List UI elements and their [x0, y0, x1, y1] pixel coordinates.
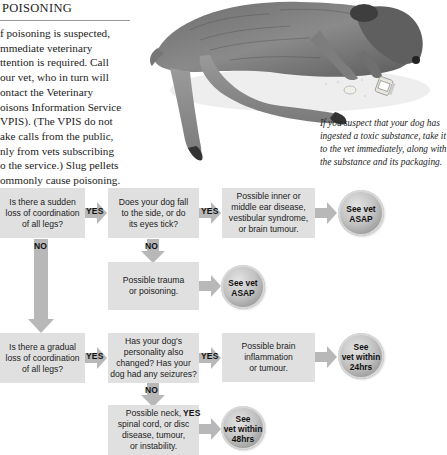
box-text-line: spinal cord, or disc	[118, 419, 190, 430]
action-text-line: vet within	[224, 424, 263, 434]
action-text-line: 24hrs	[342, 362, 381, 372]
box-text-line: disease, tumour,	[118, 430, 190, 441]
yes-label: YES	[201, 351, 219, 361]
arrow-right-icon	[315, 202, 337, 224]
action-text-line: ASAP	[346, 214, 375, 224]
intro-line: ommonly cause poisoning.	[0, 173, 155, 188]
question-gradual-loss-coordination: Is there a gradual loss of coordination …	[0, 333, 85, 383]
result-brain-inflammation: Possible brain inflammation or tumour.	[222, 333, 315, 382]
box-text-line: Is there a sudden	[5, 197, 79, 208]
action-text-line: See vet	[346, 204, 375, 214]
no-label: NO	[145, 241, 158, 251]
intro-line: o the service.) Slug pellets	[0, 158, 155, 173]
box-text-line: personality also	[110, 347, 196, 358]
intro-line: f poisoning is suspected,	[0, 26, 155, 41]
box-text-line: changed? Has your	[110, 358, 196, 369]
intro-line: VPIS). (The VPIS do not	[0, 114, 155, 129]
intro-line: mmediate veterinary	[0, 41, 155, 56]
box-text-line: or instability.	[118, 441, 190, 452]
action-see-vet-asap: See vet ASAP	[338, 190, 384, 236]
box-text-line: of all legs?	[5, 364, 79, 375]
action-text-line: See vet	[228, 278, 257, 288]
no-label: NO	[145, 385, 158, 395]
intro-line: ake calls from the public,	[0, 129, 155, 144]
yes-label: YES	[86, 206, 104, 216]
box-text-line: of all legs?	[5, 219, 79, 230]
no-label: NO	[34, 241, 47, 251]
intro-line: oisons Information Service	[0, 100, 155, 115]
arrow-right-icon	[199, 418, 221, 440]
action-text-line: ASAP	[228, 288, 257, 298]
box-text-line: inflammation	[242, 352, 296, 363]
yes-label: YES	[201, 206, 219, 216]
yes-label: YES	[86, 351, 104, 361]
question-fall-to-side: Does your dog fall to the side, or do it…	[108, 188, 199, 238]
arrow-right-icon	[315, 346, 337, 368]
box-text-line: loss of coordination	[5, 353, 79, 364]
yes-label: YES	[183, 408, 201, 418]
action-text-line: vet within	[342, 352, 381, 362]
action-see-vet-24hrs: See vet within 24hrs	[338, 333, 384, 379]
box-text-line: Possible brain	[242, 341, 296, 352]
intro-line: ontact the Veterinary	[0, 85, 155, 100]
box-text-line: loss of coordination	[5, 208, 79, 219]
result-trauma-poisoning: Possible trauma or poisoning.	[108, 262, 199, 310]
arrow-right-icon	[199, 275, 221, 297]
question-sudden-loss-coordination: Is there a sudden loss of coordination o…	[0, 188, 85, 238]
arrow-down-long-icon	[28, 239, 54, 333]
title-divider	[0, 20, 130, 21]
intro-line: ttention is required. Call	[0, 55, 155, 70]
section-title: POISONING	[2, 1, 72, 16]
box-text-line: or tumour.	[242, 363, 296, 374]
action-text-line: See	[342, 342, 381, 352]
box-text-line: dog had any seizures?	[110, 369, 196, 380]
caption-line: to the vet immediately, along with	[320, 143, 447, 156]
question-personality-seizures: Has your dog's personality also changed?…	[108, 333, 199, 383]
box-text-line: Does your dog fall	[119, 197, 188, 208]
caption-line: the substance and its packaging.	[320, 156, 447, 169]
action-text-line: 48hrs	[224, 434, 263, 444]
intro-line: our vet, who in turn will	[0, 70, 155, 85]
box-text-line: to the side, or do	[119, 208, 188, 219]
box-text-line: Possible inner or	[229, 191, 308, 202]
action-text-line: See	[224, 414, 263, 424]
box-text-line: vestibular syndrome,	[229, 213, 308, 224]
box-text-line: its eyes tick?	[119, 219, 188, 230]
action-see-vet-asap-trauma: See vet ASAP	[221, 265, 265, 309]
intro-line: nly from vets subscribing	[0, 144, 155, 159]
intro-paragraph: f poisoning is suspected, mmediate veter…	[0, 26, 155, 188]
box-text-line: Possible neck,	[118, 408, 190, 419]
box-text-line: or brain tumour.	[229, 224, 308, 235]
box-text-line: Possible trauma	[123, 275, 185, 286]
action-see-vet-48hrs: See vet within 48hrs	[221, 406, 265, 450]
box-text-line: or poisoning.	[123, 286, 185, 297]
result-ear-disease: Possible inner or middle ear disease, ve…	[222, 188, 315, 238]
caption-line: If you suspect that your dog has	[320, 117, 447, 130]
box-text-line: Is there a gradual	[5, 342, 79, 353]
caption-line: ingested a toxic substance, take it	[320, 130, 447, 143]
box-text-line: Has your dog's	[110, 336, 196, 347]
illustration-caption: If you suspect that your dog has ingeste…	[320, 117, 447, 169]
box-text-line: middle ear disease,	[229, 202, 308, 213]
